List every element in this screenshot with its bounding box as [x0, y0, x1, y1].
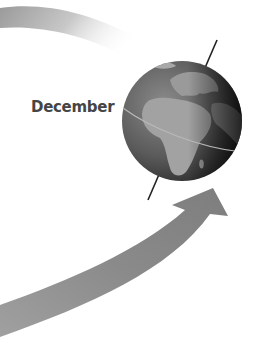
orbit-arc-top — [0, 6, 150, 62]
month-label: December — [31, 98, 114, 116]
earth-globe — [122, 61, 242, 181]
continents — [122, 61, 242, 181]
orbit-diagram — [0, 0, 263, 337]
orbit-arrow — [0, 188, 228, 337]
